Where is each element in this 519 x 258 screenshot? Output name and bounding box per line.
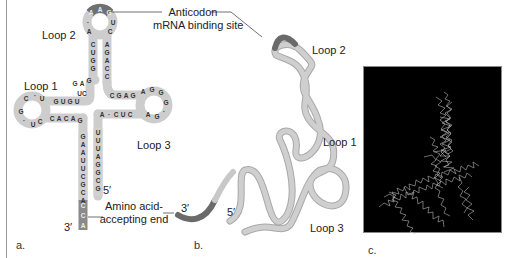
loop2-label-b: Loop 2 xyxy=(312,45,346,56)
svg-text:G: G xyxy=(80,181,85,188)
svg-text:C: C xyxy=(91,41,96,48)
svg-text:UC: UC xyxy=(77,90,87,97)
svg-text:G: G xyxy=(149,86,154,93)
svg-text:A: A xyxy=(81,149,86,156)
panel-letter-b: b. xyxy=(194,240,203,251)
svg-text:G: G xyxy=(77,117,82,124)
svg-text:U: U xyxy=(91,49,96,56)
anticodon-label-line1: Anticodon xyxy=(153,7,233,18)
svg-text:·: · xyxy=(87,19,89,26)
svg-text:A: A xyxy=(81,141,86,148)
svg-text:U: U xyxy=(81,165,86,172)
svg-text:C: C xyxy=(105,65,110,72)
loop3-label-b: Loop 3 xyxy=(310,223,344,234)
wireframe-model xyxy=(364,67,503,234)
amino-label-line1: Amino acid- xyxy=(98,201,170,212)
svg-text:U: U xyxy=(61,98,66,105)
svg-text:C: C xyxy=(128,111,133,118)
svg-text:·: · xyxy=(108,111,110,118)
svg-text:A: A xyxy=(80,80,85,87)
svg-text:C: C xyxy=(96,177,101,184)
loop1-label: Loop 1 xyxy=(24,81,58,92)
svg-text:A: A xyxy=(71,115,76,122)
anticodon-label: Anticodon mRNA binding site xyxy=(153,7,233,31)
svg-text:C: C xyxy=(114,111,119,118)
svg-text:U: U xyxy=(96,145,101,152)
svg-text:C: C xyxy=(81,202,86,209)
five-prime-label-b: 5′ xyxy=(227,207,235,218)
svg-text:A: A xyxy=(146,111,151,118)
svg-text:G: G xyxy=(67,98,72,105)
loop3-label: Loop 3 xyxy=(137,140,171,151)
svg-text:C: C xyxy=(110,92,115,99)
panel-letter-c: c. xyxy=(368,245,377,256)
svg-text:U: U xyxy=(75,98,80,105)
svg-text:G: G xyxy=(130,92,135,99)
svg-text:C: C xyxy=(81,212,86,219)
svg-text:U: U xyxy=(96,137,101,144)
svg-text:A: A xyxy=(57,115,62,122)
svg-text:G: G xyxy=(80,133,85,140)
svg-text:A: A xyxy=(141,88,146,95)
svg-text:G: G xyxy=(86,77,91,84)
tube-model xyxy=(178,38,346,232)
svg-text:G: G xyxy=(90,57,95,64)
anticodon-base-1: A xyxy=(89,9,94,16)
panel-letter-a: a. xyxy=(16,240,25,251)
svg-text:G: G xyxy=(53,98,58,105)
molecular-model-panel xyxy=(363,66,502,233)
svg-text:G: G xyxy=(116,92,121,99)
svg-text:G: G xyxy=(95,185,100,192)
svg-text:G: G xyxy=(72,80,77,87)
svg-text:G: G xyxy=(18,108,23,115)
svg-text:A: A xyxy=(105,41,110,48)
trna-figure: A A G UC ·A C U G G A G A C C GAG UC G U… xyxy=(0,0,519,258)
svg-text:G: G xyxy=(90,65,95,72)
svg-text:A: A xyxy=(105,57,110,64)
amino-acid-end-label: Amino acid- accepting end xyxy=(98,201,170,225)
five-prime-label-a: 5′ xyxy=(103,185,111,196)
amino-label-line2: accepting end xyxy=(98,214,170,225)
svg-text:C: C xyxy=(64,115,69,122)
svg-text:U: U xyxy=(121,111,126,118)
anticodon-base-2: A xyxy=(98,6,103,13)
svg-text:U: U xyxy=(81,157,86,164)
svg-text:A: A xyxy=(100,111,105,118)
svg-text:G: G xyxy=(95,169,100,176)
svg-text:·: · xyxy=(23,117,25,124)
svg-text:G: G xyxy=(158,89,163,96)
svg-text:A: A xyxy=(96,153,101,160)
svg-text:C: C xyxy=(38,118,43,125)
svg-text:U: U xyxy=(111,19,116,26)
svg-text:C: C xyxy=(50,115,55,122)
svg-text:C: C xyxy=(105,73,110,80)
svg-text:U: U xyxy=(40,95,45,102)
svg-text:·: · xyxy=(34,92,36,99)
three-prime-label-b: 3′ xyxy=(181,203,189,214)
anticodon-base-3: G xyxy=(106,9,111,16)
loop2-label: Loop 2 xyxy=(42,30,76,41)
svg-text:G: G xyxy=(163,99,168,106)
svg-text:U: U xyxy=(31,121,36,128)
svg-text:A: A xyxy=(81,222,86,229)
svg-text:G: G xyxy=(154,113,159,120)
svg-text:G: G xyxy=(104,49,109,56)
three-prime-label-a: 3′ xyxy=(64,222,72,233)
svg-text:C: C xyxy=(81,189,86,196)
svg-text:·: · xyxy=(163,108,165,115)
svg-text:G: G xyxy=(95,161,100,168)
svg-text:C: C xyxy=(24,95,29,102)
svg-text:C: C xyxy=(108,28,113,35)
anticodon-label-line2: mRNA binding site xyxy=(153,20,233,31)
svg-text:C: C xyxy=(81,173,86,180)
svg-text:A: A xyxy=(87,28,92,35)
svg-text:U: U xyxy=(96,129,101,136)
loop1-label-b: Loop 1 xyxy=(323,137,357,148)
svg-text:A: A xyxy=(124,92,129,99)
